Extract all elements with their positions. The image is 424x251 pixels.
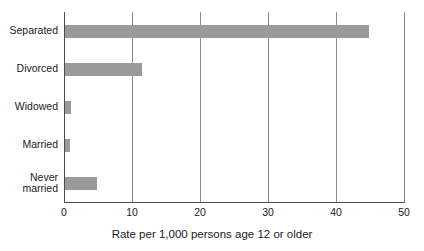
x-axis-title: Rate per 1,000 persons age 12 or older <box>0 228 424 240</box>
x-tick-label-30: 30 <box>253 206 283 218</box>
category-label-widowed: Widowed <box>2 101 58 113</box>
bar-chart: 01020304050SeparatedDivorcedWidowedMarri… <box>0 0 424 251</box>
x-tick-label-10: 10 <box>117 206 147 218</box>
bar-widowed <box>65 101 71 114</box>
category-label-separated: Separated <box>2 25 58 37</box>
category-label-never-married: Never married <box>2 172 58 195</box>
x-tick-label-40: 40 <box>321 206 351 218</box>
x-axis-line <box>64 202 405 203</box>
gridline-20 <box>200 12 201 202</box>
bar-married <box>65 139 70 152</box>
x-tick-label-0: 0 <box>49 206 79 218</box>
gridline-10 <box>132 12 133 202</box>
plot-area <box>64 12 404 202</box>
category-label-divorced: Divorced <box>2 63 58 75</box>
bar-never-married <box>65 177 97 190</box>
x-tick-label-50: 50 <box>389 206 419 218</box>
gridline-30 <box>268 12 269 202</box>
bar-separated <box>65 25 369 38</box>
category-label-married: Married <box>2 139 58 151</box>
gridline-40 <box>336 12 337 202</box>
gridline-50 <box>404 12 405 202</box>
x-tick-label-20: 20 <box>185 206 215 218</box>
bar-divorced <box>65 63 142 76</box>
